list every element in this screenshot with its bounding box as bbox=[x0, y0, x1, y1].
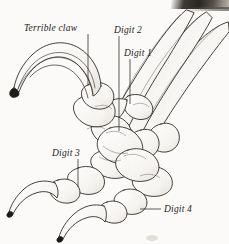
scan-edge-artifact-secondary bbox=[185, 7, 229, 11]
figure-dromaeosaur-foot: Terrible claw Digit 2 Digit 1 Digit 3 Di… bbox=[0, 0, 229, 244]
label-digit-4: Digit 4 bbox=[164, 205, 192, 215]
label-digit-3: Digit 3 bbox=[52, 149, 80, 159]
label-digit-1: Digit 1 bbox=[124, 49, 152, 59]
label-digit-2: Digit 2 bbox=[114, 26, 142, 36]
claw-inner-hook bbox=[30, 65, 88, 98]
page-mark bbox=[146, 235, 158, 241]
digit-4-claw-tip bbox=[57, 237, 63, 243]
digit-3-claw-tip bbox=[7, 212, 13, 218]
label-terrible-claw: Terrible claw bbox=[24, 24, 77, 34]
